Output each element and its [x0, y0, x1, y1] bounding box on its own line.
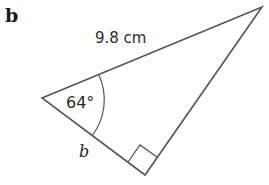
triangle-diagram: b 9.8 cm 64° b [0, 0, 269, 185]
part-label: b [5, 4, 18, 26]
side-label: b [79, 142, 89, 161]
angle-label: 64° [66, 93, 94, 112]
right-triangle [42, 7, 262, 175]
right-angle-marker [128, 145, 157, 162]
hypotenuse-label: 9.8 cm [95, 29, 146, 47]
